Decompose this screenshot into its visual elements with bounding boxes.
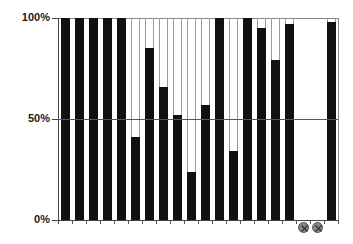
bar <box>201 105 210 220</box>
y-label-0: 0% <box>2 213 50 225</box>
x-tick <box>310 220 311 224</box>
bar <box>159 87 168 220</box>
bar <box>327 22 336 220</box>
bar <box>187 172 196 220</box>
missing-data-icon <box>312 222 323 233</box>
x-tick <box>72 220 73 224</box>
x-tick <box>226 220 227 224</box>
gridline-50 <box>58 119 338 120</box>
x-tick <box>114 220 115 224</box>
x-tick <box>282 220 283 224</box>
x-tick <box>128 220 129 224</box>
x-tick <box>324 220 325 224</box>
x-tick <box>100 220 101 224</box>
right-border <box>338 18 339 224</box>
x-tick <box>240 220 241 224</box>
x-tick <box>142 220 143 224</box>
x-tick <box>170 220 171 224</box>
bar <box>257 28 266 220</box>
bar <box>145 48 154 220</box>
y-label-100: 100% <box>2 11 50 23</box>
x-tick <box>86 220 87 224</box>
bar <box>173 115 182 220</box>
bar <box>131 137 140 220</box>
x-tick <box>198 220 199 224</box>
x-tick <box>268 220 269 224</box>
x-tick <box>212 220 213 224</box>
x-tick <box>184 220 185 224</box>
y-axis <box>58 18 59 224</box>
y-tick-0 <box>52 220 58 221</box>
x-tick <box>156 220 157 224</box>
bar <box>285 24 294 220</box>
bar <box>229 151 238 220</box>
x-tick <box>338 220 339 224</box>
missing-data-icon <box>298 222 309 233</box>
x-tick <box>254 220 255 224</box>
y-tick-100 <box>52 18 58 19</box>
y-label-50: 50% <box>2 112 50 124</box>
x-tick <box>296 220 297 224</box>
bar <box>271 60 280 220</box>
